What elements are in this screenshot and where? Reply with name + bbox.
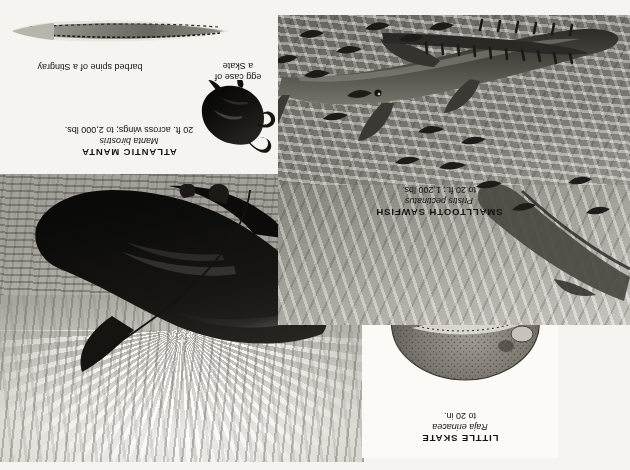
sawfish-size: to 20 ft.; 1,200 lbs.	[354, 184, 524, 195]
skate-size: to 20 in.	[362, 410, 558, 421]
sawfish-icon	[278, 15, 630, 325]
sawfish-common-name: SMALLTOOTH SAWFISH	[354, 206, 524, 218]
plate-page: ATLANTIC MANTA Manta birostris 20 ft. ac…	[0, 0, 630, 470]
skate-common-name: LITTLE SKATE	[362, 432, 558, 444]
egg-case-line-1: egg case of	[190, 71, 286, 82]
egg-case-line-2: a Skate	[190, 60, 286, 71]
egg-case-icon	[196, 80, 278, 164]
sawfish-scientific-name: Pristis pectinatus	[354, 195, 524, 206]
smalltooth-sawfish-caption: SMALLTOOTH SAWFISH Pristis pectinatus to…	[354, 184, 524, 218]
little-skate-caption: LITTLE SKATE Raja erinacea to 20 in.	[362, 410, 558, 444]
sawfish-illustration-panel	[278, 15, 630, 325]
barbed-spine-icon	[10, 16, 232, 46]
stingray-spine-annotation: barbed spine of a Stingray	[0, 61, 180, 72]
spine-annotation-text: barbed spine of a Stingray	[0, 61, 180, 72]
skate-scientific-name: Raja erinacea	[362, 421, 558, 432]
egg-case-annotation: egg case of a Skate	[190, 60, 286, 82]
